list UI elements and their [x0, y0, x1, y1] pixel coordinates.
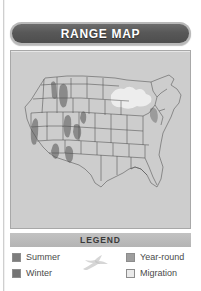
legend-item-summer[interactable]: Summer: [12, 249, 60, 265]
state-line-fl2: [131, 167, 147, 175]
range-area-summer-nevada-arizona: [51, 144, 59, 159]
legend-item-winter[interactable]: Winter: [12, 265, 60, 281]
state-line-mid1: [31, 112, 143, 116]
state-line-ne2: [155, 97, 165, 111]
legend-item-label: Year-round: [140, 253, 184, 262]
legend-column-right: Year-round Migration: [126, 249, 184, 281]
legend-item-label: Winter: [26, 269, 52, 278]
map-panel: [10, 50, 191, 229]
state-line-mid3: [37, 140, 149, 145]
map-state-borders: [25, 75, 181, 187]
state-line-ne1: [151, 82, 167, 97]
flying-bird-icon: [80, 252, 110, 276]
legend-item-migration[interactable]: Migration: [126, 265, 184, 281]
legend-item-label: Migration: [140, 269, 177, 278]
page-title: RANGE MAP: [61, 27, 141, 41]
migration-swatch-icon: [126, 269, 135, 278]
year-round-swatch-icon: [126, 253, 135, 262]
us-range-map-graphic: [11, 51, 191, 229]
summer-swatch-icon: [12, 253, 21, 262]
state-line-mid2: [31, 126, 143, 131]
title-banner-fill: RANGE MAP: [12, 24, 189, 43]
state-line-v6: [42, 98, 43, 113]
range-area-migration-great-lakes: [111, 87, 151, 109]
state-line-ne4: [159, 111, 163, 125]
range-map-title-banner: RANGE MAP: [10, 22, 191, 45]
legend-item-label: Summer: [26, 253, 60, 262]
legend-column-left: Summer Winter: [12, 249, 60, 281]
legend-header-label: LEGEND: [80, 235, 121, 245]
page-edge-rule-light: [4, 0, 5, 291]
state-line-fl1: [145, 158, 157, 185]
range-area-summer-idaho-montana: [59, 84, 68, 108]
map-shading-layer: [31, 81, 158, 163]
legend-header-bar: LEGEND: [10, 233, 191, 247]
state-line-v1: [43, 79, 44, 98]
range-area-summer-colorado: [80, 111, 86, 124]
legend-item-year-round[interactable]: Year-round: [126, 249, 184, 265]
winter-swatch-icon: [12, 269, 21, 278]
